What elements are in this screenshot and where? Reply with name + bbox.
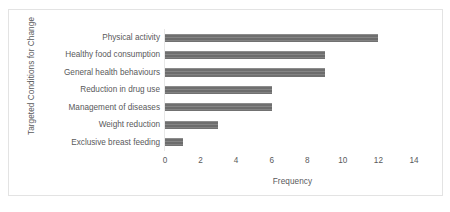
bar [165, 68, 325, 76]
x-axis-tick-label: 14 [399, 154, 429, 167]
y-axis-tick-label: Management of diseases [29, 99, 160, 116]
bar-row [164, 99, 421, 116]
bar [165, 86, 272, 94]
x-axis-tick-label: 12 [363, 154, 393, 167]
x-axis-tick-label: 4 [221, 154, 251, 167]
bar-row [164, 64, 421, 81]
x-axis-tick-label: 2 [186, 154, 216, 167]
bar-row [164, 46, 421, 63]
bar-row [164, 81, 421, 98]
x-axis-title: Frequency [164, 177, 421, 186]
x-axis-tick-label: 10 [328, 154, 358, 167]
x-axis-tick-label: 8 [292, 154, 322, 167]
bar-row [164, 29, 421, 46]
bar [165, 34, 378, 42]
bar-row [164, 134, 421, 151]
bar-chart-figure: Targeted Conditions for Change Physical … [8, 9, 443, 196]
y-axis-tick-label: Reduction in drug use [29, 81, 160, 98]
bar [165, 103, 272, 111]
y-axis-tick-label: Exclusive breast feeding [29, 134, 160, 151]
bar [165, 121, 218, 129]
bar-row [164, 116, 421, 133]
x-axis-tick-label: 6 [257, 154, 287, 167]
y-axis-tick-labels: Physical activityHealthy food consumptio… [29, 29, 160, 151]
x-axis-tick-labels: 02468101214 [164, 154, 421, 167]
y-axis-tick-label: General health behaviours [29, 64, 160, 81]
y-axis-tick-label: Weight reduction [29, 116, 160, 133]
y-axis-tick-label: Healthy food consumption [29, 46, 160, 63]
bar [165, 138, 183, 146]
y-axis-tick-label: Physical activity [29, 29, 160, 46]
plot-area [164, 29, 421, 151]
x-axis-tick-label: 0 [150, 154, 180, 167]
bar [165, 51, 325, 59]
